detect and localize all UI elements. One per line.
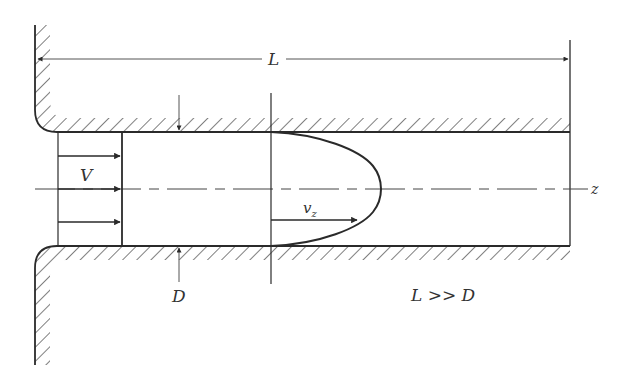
uniform-velocity-label: V	[80, 165, 94, 185]
length-label: L	[267, 49, 279, 69]
length-dimension: L	[38, 49, 568, 69]
uniform-velocity-profile: V	[58, 132, 122, 246]
condition-label: L >> D	[410, 285, 476, 305]
upper-wall	[0, 0, 627, 383]
lower-wall	[0, 0, 627, 383]
pipe-entrance-flow-diagram: L z V D vz L >> D	[0, 0, 627, 383]
axis-label: z	[590, 181, 599, 197]
local-velocity-label: vz	[303, 199, 317, 219]
diameter-label: D	[171, 286, 186, 306]
